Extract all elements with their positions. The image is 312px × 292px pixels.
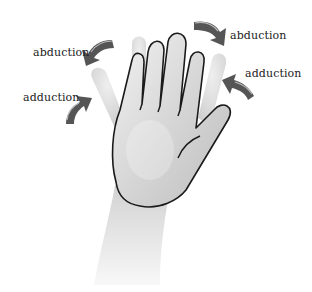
label-left-abduction: abduction xyxy=(33,47,89,59)
hand-illustration xyxy=(0,0,312,292)
label-right-adduction: adduction xyxy=(245,68,301,80)
hand-movement-diagram: abduction adduction abduction adduction xyxy=(0,0,312,292)
label-right-abduction: abduction xyxy=(230,30,286,42)
label-left-adduction: adduction xyxy=(23,92,79,104)
arrow-right-abduction-icon xyxy=(194,21,226,46)
